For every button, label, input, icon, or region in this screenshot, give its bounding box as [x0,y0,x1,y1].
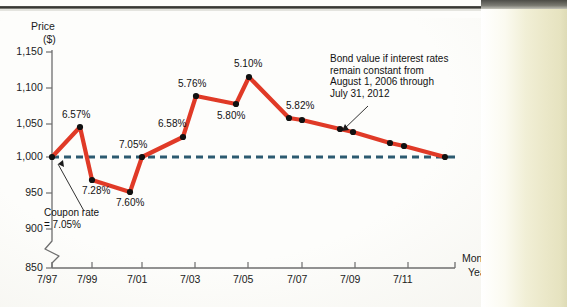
y-tick-marks [46,52,52,268]
coupon-note-leader-line [58,164,84,211]
y-tick-label-1000: 1,000 [0,150,43,162]
x-tick-marks [52,262,408,268]
point-label-760: 7.60% [116,197,144,208]
x-tick-label-703: 7/03 [180,273,200,285]
x-tick-label-711: 7/11 [393,273,413,285]
plot-area: Price ($) 1,150 1,100 1,050 1,000 950 90… [0,0,520,307]
chart-figure: Price ($) 1,150 1,100 1,050 1,000 950 90… [0,0,567,307]
bond-value-annotation: Bond value if interest rates remain cons… [330,53,448,99]
x-tick-label-701: 7/01 [127,273,147,285]
y-tick-label-1050: 1,050 [0,117,43,129]
chart-svg [0,0,520,307]
y-tick-label-900: 900 [0,222,43,234]
point-label-580: 5.80% [217,110,245,121]
y-tick-label-950: 950 [0,186,43,198]
page-edge-strip [481,0,567,307]
y-tick-label-1100: 1,100 [0,81,43,93]
point-label-657: 6.57% [62,109,90,120]
point-label-658: 6.58% [158,118,186,129]
point-label-705: 7.05% [119,139,147,150]
x-tick-label-705: 7/05 [233,273,253,285]
x-tick-label-707: 7/07 [287,273,307,285]
x-tick-label-709: 7/09 [340,273,360,285]
y-tick-label-850: 850 [0,261,43,273]
point-label-582: 5.82% [286,100,314,111]
point-label-728: 7.28% [82,185,110,196]
x-tick-label-799: 7/99 [77,273,97,285]
x-tick-label-797: 7/97 [37,273,57,285]
y-tick-label-1150: 1,150 [0,45,43,57]
y-axis-title-line1: Price [31,20,55,32]
point-label-576: 5.76% [178,78,206,89]
y-axis-title-line2: ($) [43,33,56,45]
page-edge-top-shadow [481,0,567,9]
coupon-rate-annotation: Coupon rate = 7.05% [44,207,99,230]
point-label-510: 5.10% [234,58,262,69]
